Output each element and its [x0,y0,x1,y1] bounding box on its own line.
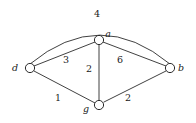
graph-figure: 4 3 6 2 1 2 d a b g [0,0,196,123]
node-b [165,63,174,72]
edge-g-b [104,71,166,102]
node-label-d: d [12,62,18,73]
edge-weight-d-b: 4 [94,8,100,19]
node-g [94,100,103,109]
edge-weight-a-g: 2 [86,63,92,74]
edge-weight-d-a: 3 [63,54,69,65]
graph-canvas: 4 3 6 2 1 2 d a b g [0,0,196,123]
edge-weight-labels: 4 3 6 2 1 2 [55,8,131,103]
edge-weight-d-g: 1 [55,92,61,103]
edge-weight-g-b: 2 [125,92,131,103]
edge-d-g [34,71,95,103]
node-label-g: g [83,103,89,114]
node-label-a: a [105,28,111,39]
edge-weight-a-b: 6 [117,54,123,65]
nodes-layer [25,35,174,109]
node-a [94,35,103,44]
edges-layer [30,35,170,103]
node-d [25,63,34,72]
node-label-b: b [178,62,184,73]
